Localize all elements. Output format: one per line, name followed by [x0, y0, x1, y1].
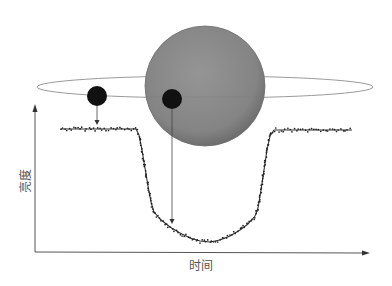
star-disc: [145, 26, 265, 146]
data-point: [145, 174, 147, 176]
data-point: [219, 239, 221, 241]
data-point: [255, 213, 257, 215]
data-point: [199, 242, 201, 244]
data-point: [110, 127, 112, 129]
data-point: [256, 210, 258, 212]
data-point: [266, 147, 268, 149]
data-point: [257, 209, 259, 211]
data-point: [203, 239, 205, 241]
data-point: [205, 241, 207, 243]
data-point: [140, 144, 142, 146]
data-point: [66, 130, 68, 132]
data-point: [89, 127, 91, 129]
data-point: [143, 160, 145, 162]
data-point: [311, 128, 313, 130]
data-point: [94, 130, 96, 132]
data-point: [231, 234, 233, 236]
data-point: [105, 130, 107, 132]
data-point: [336, 131, 338, 133]
planet-outside-transit-arrow-icon: [95, 120, 100, 125]
data-point: [305, 129, 307, 131]
data-point: [79, 128, 81, 130]
data-point: [181, 235, 183, 237]
data-point: [291, 131, 293, 133]
data-point: [113, 128, 115, 130]
data-point: [241, 227, 243, 229]
data-point: [188, 236, 190, 238]
data-point: [180, 234, 182, 236]
data-point: [259, 199, 261, 201]
data-point: [282, 131, 284, 133]
data-point: [127, 127, 129, 129]
data-point: [60, 128, 62, 130]
data-point: [243, 226, 245, 228]
data-point: [147, 189, 149, 191]
data-point: [275, 127, 277, 129]
data-point: [268, 139, 270, 141]
data-point: [263, 171, 265, 173]
data-point: [237, 231, 239, 233]
data-point: [193, 238, 195, 240]
data-point: [251, 219, 253, 221]
data-point: [268, 144, 270, 146]
data-point: [130, 130, 132, 132]
data-point: [144, 164, 146, 166]
data-point: [262, 180, 264, 182]
data-point: [332, 128, 334, 130]
planet-in-transit-arrow-icon: [170, 219, 175, 224]
data-point: [137, 129, 139, 131]
data-point: [349, 127, 351, 129]
data-point: [227, 235, 229, 237]
data-point: [322, 129, 324, 131]
data-point: [192, 239, 194, 241]
data-point: [150, 200, 152, 202]
data-point: [154, 212, 156, 214]
data-point: [296, 130, 298, 132]
data-point: [97, 127, 99, 129]
data-point: [189, 237, 191, 239]
data-point: [210, 240, 212, 242]
data-point: [257, 204, 259, 206]
x-axis-line: [35, 252, 364, 253]
data-point: [164, 224, 166, 226]
data-point: [264, 161, 266, 163]
x-axis-label: 时间: [189, 260, 213, 272]
data-point: [167, 226, 169, 228]
data-point: [340, 128, 342, 130]
data-point: [147, 183, 149, 185]
planets-group: [87, 86, 182, 224]
data-point: [313, 128, 315, 130]
data-point: [99, 127, 101, 129]
data-point: [85, 128, 87, 130]
data-point: [160, 220, 162, 222]
data-point: [207, 239, 209, 241]
data-point: [103, 128, 105, 130]
data-point: [145, 176, 147, 178]
data-point: [334, 129, 336, 131]
data-point: [169, 226, 171, 228]
y-axis-arrow-icon: [33, 104, 38, 112]
data-point: [73, 126, 75, 128]
data-point: [196, 239, 198, 241]
data-point: [142, 158, 144, 160]
data-point: [266, 156, 268, 158]
data-point: [75, 127, 77, 129]
data-point: [140, 139, 142, 141]
data-point: [262, 178, 264, 180]
data-point: [259, 196, 261, 198]
data-point: [151, 206, 153, 208]
data-point: [223, 237, 225, 239]
data-point: [140, 142, 142, 144]
data-point: [166, 223, 168, 225]
data-point: [213, 241, 215, 243]
data-point: [337, 129, 339, 131]
data-point: [269, 135, 271, 137]
data-point: [302, 128, 304, 130]
data-point: [119, 127, 121, 129]
data-point: [344, 130, 346, 132]
data-point: [69, 128, 71, 130]
data-point: [151, 203, 153, 205]
data-point: [152, 208, 154, 210]
data-point: [143, 164, 145, 166]
data-point: [147, 187, 149, 189]
